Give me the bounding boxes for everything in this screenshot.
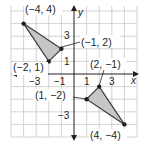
vertex-label: (−2, 1) xyxy=(13,61,44,73)
x-tick-label: 1 xyxy=(84,76,90,87)
vertex-label: (4, −4) xyxy=(90,129,121,141)
vertex-label: (1, −2) xyxy=(35,89,66,101)
vertex-label: (2, −1) xyxy=(90,58,121,70)
vertex-point xyxy=(21,21,25,25)
vertex-label: (−4, 4) xyxy=(25,3,56,15)
x-tick-label: −3 xyxy=(29,76,41,87)
y-tick-label: 1 xyxy=(64,56,70,67)
vertex-point xyxy=(59,47,63,51)
vertex-point xyxy=(122,122,126,126)
y-axis-down-arrow-icon xyxy=(71,135,77,141)
x-tick-label: 3 xyxy=(109,76,115,87)
y-axis-label: y xyxy=(77,7,84,18)
coordinate-plane: x y −3 −1 1 3 3 1 −3 (−4, 4) (−1, 2) (−2… xyxy=(0,0,148,148)
triangle-lower-right xyxy=(87,87,125,125)
x-axis-label: x xyxy=(130,75,137,86)
triangle-upper-left xyxy=(24,24,62,62)
x-tick-label: −1 xyxy=(54,76,66,87)
y-axis-up-arrow-icon xyxy=(71,5,77,11)
y-tick-label: 3 xyxy=(64,30,70,41)
y-tick-label: −3 xyxy=(58,110,70,121)
vertex-label: (−1, 2) xyxy=(81,36,112,48)
